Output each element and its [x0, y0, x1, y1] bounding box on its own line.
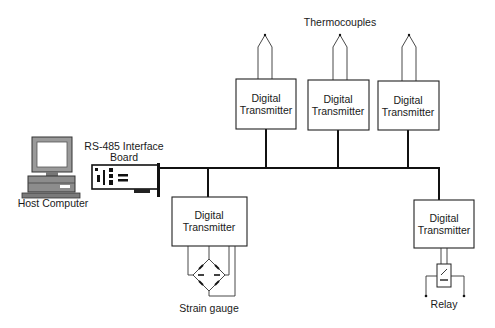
- rs485-bus: [159, 129, 439, 200]
- transmitter-label: Transmitter: [382, 106, 435, 118]
- digital-transmitter-5: Digital Transmitter: [414, 200, 474, 248]
- transmitter-label: Digital: [393, 94, 422, 106]
- thermocouple-icon: [402, 34, 416, 81]
- transmitter-label: Digital: [194, 209, 223, 221]
- transmitter-label: Transmitter: [183, 221, 236, 233]
- network-diagram: Host Computer RS-485 Interface Board The…: [0, 0, 495, 328]
- host-computer-label: Host Computer: [18, 197, 89, 209]
- host-computer-icon: [22, 137, 80, 198]
- transmitter-label: Transmitter: [418, 224, 471, 236]
- digital-transmitter-1: Digital Transmitter: [236, 79, 296, 129]
- relay-label: Relay: [431, 298, 459, 310]
- transmitter-label: Transmitter: [312, 105, 365, 117]
- interface-board-icon: [92, 163, 160, 197]
- thermocouple-icon: [333, 34, 347, 80]
- digital-transmitter-3: Digital Transmitter: [378, 81, 439, 130]
- strain-gauge-bridge-icon: [188, 246, 235, 296]
- strain-gauge-label: Strain gauge: [179, 302, 239, 314]
- digital-transmitter-4: Digital Transmitter: [172, 197, 247, 246]
- transmitter-label: Digital: [251, 92, 280, 104]
- transmitter-label: Digital: [429, 212, 458, 224]
- transmitter-label: Transmitter: [240, 104, 293, 116]
- transmitter-label: Digital: [323, 93, 352, 105]
- digital-transmitter-2: Digital Transmitter: [308, 80, 369, 130]
- thermocouples-label: Thermocouples: [304, 16, 376, 28]
- relay-icon: [425, 248, 466, 297]
- interface-board-label-line2: Board: [110, 151, 138, 163]
- thermocouple-icon: [258, 34, 272, 79]
